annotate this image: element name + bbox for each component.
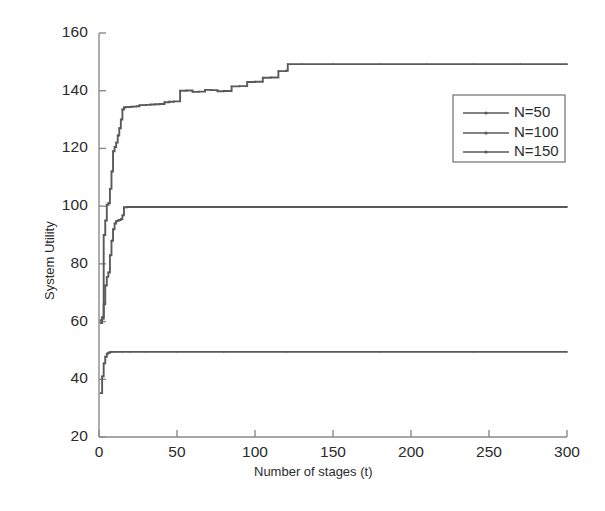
data-point	[231, 85, 233, 87]
data-point	[285, 351, 287, 353]
data-point	[109, 188, 111, 190]
data-point	[410, 206, 412, 208]
data-point	[164, 101, 166, 103]
data-point	[123, 206, 125, 208]
x-tick-label: 300	[537, 443, 597, 461]
y-tick-label: 140	[30, 81, 88, 99]
data-point	[104, 356, 106, 358]
series-N=50	[100, 351, 568, 394]
y-axis-title: System Utility	[42, 221, 57, 300]
data-point	[125, 106, 127, 108]
data-point	[254, 81, 256, 83]
data-point	[114, 223, 116, 225]
data-point	[117, 351, 119, 353]
y-tick-label: 80	[30, 254, 88, 272]
data-point	[129, 351, 131, 353]
axes-lines	[99, 33, 567, 437]
x-axis-ticks	[99, 430, 567, 437]
data-point	[117, 220, 119, 222]
data-point	[145, 104, 147, 106]
x-tick-label: 150	[303, 443, 363, 461]
data-point	[154, 103, 156, 105]
data-point	[379, 63, 381, 65]
data-point	[122, 109, 124, 111]
data-point	[114, 351, 116, 353]
data-point	[117, 135, 119, 137]
data-point	[473, 351, 475, 353]
y-tick-label: 40	[30, 369, 88, 387]
data-point	[112, 150, 114, 152]
data-point	[332, 206, 334, 208]
data-point	[192, 91, 194, 93]
data-point	[107, 352, 109, 354]
data-point	[223, 90, 225, 92]
data-point	[115, 220, 117, 222]
data-point	[192, 206, 194, 208]
legend-sample-marker	[484, 150, 487, 153]
data-point	[111, 351, 113, 353]
data-point	[107, 202, 109, 204]
data-point	[132, 106, 134, 108]
legend-sample-marker	[484, 131, 487, 134]
data-point	[118, 127, 120, 129]
data-point	[111, 240, 113, 242]
data-point	[107, 272, 109, 274]
data-point	[145, 206, 147, 208]
data-point	[161, 206, 163, 208]
data-point	[519, 63, 521, 65]
data-point	[106, 353, 108, 355]
data-point	[126, 206, 128, 208]
data-point	[204, 89, 206, 91]
y-tick-label: 100	[30, 196, 88, 214]
data-point	[566, 206, 568, 208]
data-point	[120, 218, 122, 220]
data-point	[139, 104, 141, 106]
data-point	[270, 77, 272, 79]
data-point	[126, 106, 128, 108]
data-point	[123, 107, 125, 109]
legend-label-N50: N=50	[514, 103, 550, 120]
legend-label-N100: N=100	[514, 123, 559, 140]
legend-label-N150: N=150	[514, 142, 559, 159]
data-point	[103, 363, 105, 365]
data-point	[566, 351, 568, 353]
data-point	[136, 105, 138, 107]
data-point	[176, 351, 178, 353]
data-point	[112, 228, 114, 230]
data-point	[223, 351, 225, 353]
data-point	[129, 106, 131, 108]
data-point	[106, 276, 108, 278]
data-point	[262, 77, 264, 79]
data-point	[278, 70, 280, 72]
data-point	[145, 351, 147, 353]
data-point	[239, 85, 241, 87]
data-point	[379, 351, 381, 353]
data-point	[109, 351, 111, 353]
data-point	[246, 81, 248, 83]
data-point	[287, 63, 289, 65]
data-point	[142, 104, 144, 106]
data-point	[106, 204, 108, 206]
legend-sample-marker	[484, 111, 487, 114]
data-point	[217, 90, 219, 92]
data-point	[118, 219, 120, 221]
data-point	[159, 103, 161, 105]
x-tick-label: 250	[459, 443, 519, 461]
data-point	[101, 376, 103, 378]
data-point	[103, 234, 105, 236]
data-point	[285, 70, 287, 72]
line-chart	[0, 0, 605, 511]
x-tick-label: 100	[225, 443, 285, 461]
data-point	[100, 392, 102, 394]
series-N=100	[100, 206, 568, 324]
data-point	[122, 214, 124, 216]
data-point	[122, 351, 124, 353]
data-point	[473, 63, 475, 65]
data-point	[179, 90, 181, 92]
data-point	[100, 319, 102, 321]
data-point	[100, 322, 102, 324]
data-point	[115, 142, 117, 144]
x-tick-label: 50	[147, 443, 207, 461]
data-point	[185, 90, 187, 92]
y-tick-label: 60	[30, 312, 88, 330]
